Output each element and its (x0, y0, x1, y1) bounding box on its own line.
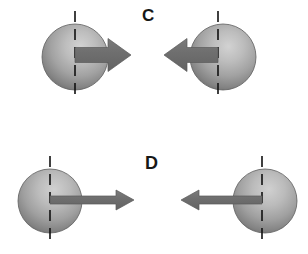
panel-label-d: D (145, 154, 158, 172)
figure-canvas: C D (0, 0, 308, 254)
sphere-group-d-left (18, 156, 134, 245)
panel-label-c: C (142, 7, 154, 24)
sphere-group-c-right (164, 11, 256, 101)
sphere-group-c-left (42, 11, 131, 101)
sphere-group-d-right (181, 156, 297, 245)
spin-diagram-svg (0, 0, 308, 254)
